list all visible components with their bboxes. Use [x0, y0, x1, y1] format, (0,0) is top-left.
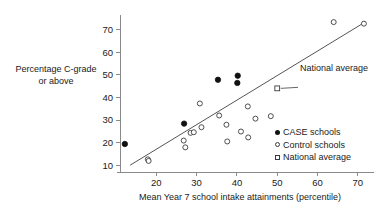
annotation-leader-line: [281, 87, 298, 88]
legend-item-national-average: National average: [272, 151, 351, 164]
data-point-case-school: [215, 77, 220, 82]
data-point-control-school: [191, 130, 196, 135]
x-axis-label: Mean Year 7 school intake attainments (p…: [106, 191, 374, 203]
data-point-control-school: [146, 158, 151, 163]
x-tick-label: 40: [232, 177, 243, 188]
open-circle-icon: [272, 142, 283, 147]
y-axis-label-line1: Percentage C-grade: [4, 63, 108, 75]
data-point-control-school: [181, 138, 186, 143]
data-point-control-school: [225, 139, 230, 144]
legend-item-case-schools: CASE schools: [272, 126, 351, 139]
data-point-control-school: [199, 125, 204, 130]
data-point-control-school: [245, 104, 250, 109]
legend-label-national-average: National average: [283, 151, 351, 164]
x-tick-label: 20: [151, 177, 162, 188]
x-tick-label: 70: [353, 177, 364, 188]
data-point-control-school: [253, 116, 258, 121]
data-point-control-school: [224, 122, 229, 127]
data-point-case-school: [235, 73, 240, 78]
data-point-control-school: [183, 145, 188, 150]
y-tick-label: 30: [102, 114, 113, 125]
data-point-case-school: [235, 80, 240, 85]
y-axis-label: Percentage C-grade or above: [4, 63, 108, 87]
data-point-control-school: [238, 129, 243, 134]
data-point-control-school: [331, 20, 336, 25]
data-point-case-school: [181, 121, 186, 126]
data-point-control-school: [217, 113, 222, 118]
y-tick-label: 10: [102, 160, 113, 171]
x-tick-label: 50: [272, 177, 283, 188]
filled-circle-icon: [272, 130, 283, 135]
y-tick-label: 60: [102, 47, 113, 58]
data-point-control-school: [268, 114, 273, 119]
data-point-control-school: [246, 135, 251, 140]
plot-area: 10203040506070203040506070: [0, 0, 382, 217]
y-tick-label: 70: [102, 24, 113, 35]
y-axis-label-line2: or above: [4, 75, 108, 87]
open-square-icon: [272, 155, 283, 160]
x-tick-label: 60: [312, 177, 323, 188]
y-tick-label: 20: [102, 137, 113, 148]
chart-legend: CASE schools Control schools National av…: [272, 126, 351, 164]
data-point-national-average: [275, 86, 280, 91]
data-point-control-school: [361, 21, 366, 26]
legend-item-control-schools: Control schools: [272, 139, 351, 152]
scatter-chart-figure: 10203040506070203040506070 Percentage C-…: [0, 0, 382, 217]
annotation-national-average: National average: [300, 63, 368, 73]
y-tick-label: 40: [102, 92, 113, 103]
data-point-case-school: [122, 141, 127, 146]
data-point-control-school: [197, 101, 202, 106]
x-tick-label: 30: [191, 177, 202, 188]
legend-label-control-schools: Control schools: [283, 139, 345, 152]
legend-label-case-schools: CASE schools: [283, 126, 341, 139]
